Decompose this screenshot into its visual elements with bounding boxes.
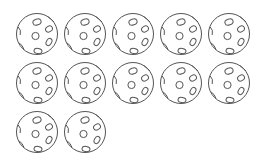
wiffle-ball-icon bbox=[15, 110, 59, 154]
wiffle-ball-icon bbox=[111, 12, 155, 56]
ball-grid bbox=[0, 0, 264, 163]
wiffle-ball-icon bbox=[15, 61, 59, 105]
wiffle-ball-icon bbox=[159, 12, 203, 56]
wiffle-ball-icon bbox=[111, 61, 155, 105]
wiffle-ball-icon bbox=[207, 12, 251, 56]
wiffle-ball-icon bbox=[159, 61, 203, 105]
wiffle-ball-icon bbox=[207, 61, 251, 105]
wiffle-ball-icon bbox=[15, 12, 59, 56]
wiffle-ball-icon bbox=[63, 12, 107, 56]
wiffle-ball-icon bbox=[63, 110, 107, 154]
wiffle-ball-icon bbox=[63, 61, 107, 105]
